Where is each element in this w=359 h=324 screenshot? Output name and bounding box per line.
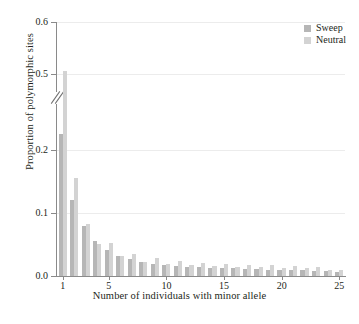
bar-group (299, 22, 311, 276)
x-axis-line (56, 276, 346, 277)
bar-group (103, 22, 115, 276)
bar-group (184, 22, 196, 276)
bar-neutral-8 (143, 262, 147, 276)
bar-group (333, 22, 345, 276)
bar-neutral-9 (155, 258, 159, 276)
bar-group (126, 22, 138, 276)
bar-group (322, 22, 334, 276)
bar-neutral-7 (132, 254, 136, 276)
bar-neutral-4 (97, 244, 101, 276)
y-tick (51, 276, 57, 277)
bar-group (92, 22, 104, 276)
bar-neutral-11 (178, 261, 182, 276)
bar-neutral-12 (189, 265, 193, 276)
bar-neutral-1 (63, 71, 67, 276)
bar-group (172, 22, 184, 276)
bar-neutral-3 (86, 224, 90, 276)
y-tick-label: 0.0 (36, 271, 49, 281)
bar-group (149, 22, 161, 276)
bar-neutral-2 (74, 178, 78, 276)
bar-neutral-24 (328, 270, 332, 276)
bar-neutral-20 (282, 268, 286, 276)
bar-neutral-13 (201, 263, 205, 276)
legend-item-neutral[interactable]: Neutral (304, 35, 346, 45)
bar-neutral-10 (166, 264, 170, 276)
chart-figure: Proportion of polymorphic sites 0.00.10.… (0, 0, 359, 324)
bar-group (138, 22, 150, 276)
bar-neutral-14 (212, 266, 216, 276)
bar-group (287, 22, 299, 276)
bar-group (161, 22, 173, 276)
bar-group (207, 22, 219, 276)
bar-neutral-18 (259, 267, 263, 276)
bar-group (69, 22, 81, 276)
bar-series-container (57, 22, 345, 276)
bar-group (276, 22, 288, 276)
bar-neutral-15 (224, 264, 228, 276)
bar-group (115, 22, 127, 276)
legend-label: Sweep (316, 23, 343, 33)
y-axis-label: Proportion of polymorphic sites (24, 0, 35, 217)
bar-group (195, 22, 207, 276)
bar-group (253, 22, 265, 276)
plot-area: 0.00.10.20.50.6 1510152025 (57, 22, 345, 276)
bar-neutral-6 (120, 256, 124, 276)
bar-group (264, 22, 276, 276)
bar-neutral-22 (305, 268, 309, 276)
bar-group (57, 22, 69, 276)
bar-group (310, 22, 322, 276)
bar-neutral-21 (293, 266, 297, 276)
bar-group (218, 22, 230, 276)
x-axis-label: Number of individuals with minor allele (0, 290, 359, 301)
legend-swatch-icon (304, 37, 311, 44)
bar-neutral-19 (270, 265, 274, 276)
bar-group (230, 22, 242, 276)
bar-group (80, 22, 92, 276)
y-tick-label: 0.1 (36, 208, 49, 218)
legend-label: Neutral (316, 35, 346, 45)
bar-neutral-23 (316, 267, 320, 276)
y-tick-label: 0.5 (36, 69, 49, 79)
bar-neutral-5 (109, 243, 113, 276)
bar-group (241, 22, 253, 276)
y-tick-label: 0.2 (36, 145, 49, 155)
chart-legend: SweepNeutral (304, 23, 346, 45)
bar-neutral-16 (235, 267, 239, 276)
legend-item-sweep[interactable]: Sweep (304, 23, 346, 33)
y-tick-label: 0.6 (36, 17, 49, 27)
legend-swatch-icon (304, 25, 311, 32)
bar-neutral-17 (247, 265, 251, 276)
